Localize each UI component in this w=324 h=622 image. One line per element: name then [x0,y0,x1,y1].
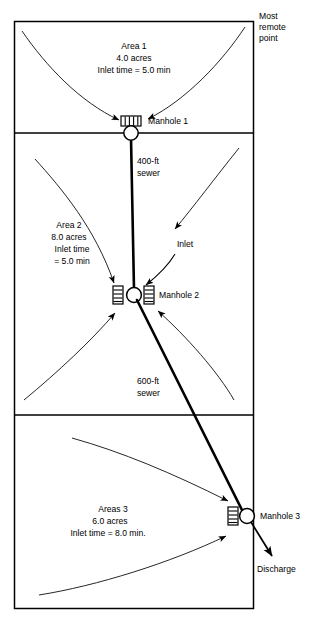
area-2-inlet-time-line-2: = 5.0 min [54,256,90,266]
sewer-400ft-label: 400-ft sewer [137,156,160,178]
manhole-3-label: Manhole 3 [260,511,300,521]
area-1-acreage: 4.0 acres [116,53,151,63]
most-remote-point-line-2: remote [259,22,286,32]
basin-boundary [15,22,254,609]
manhole-1-icon[interactable] [124,126,138,140]
manhole-1-label: Manhole 1 [148,116,188,126]
inlet-grate-icon-manhole-1 [121,116,141,126]
discharge-arrow: Discharge [251,522,296,574]
sewer-600ft-word: sewer [137,388,160,398]
manhole-2-group[interactable]: Manhole 2 [113,286,199,304]
sewer-600ft-line [137,300,243,512]
area-1-flow-arrow-left [22,31,119,120]
area-1-inlet-time: Inlet time = 5.0 min [98,65,171,75]
sewer-400ft-length: 400-ft [137,156,160,166]
inlet-grate-icon-manhole-2-right [144,286,154,304]
sewer-400ft-line [131,138,134,289]
area-2-inlet-time-line-1: Inlet time [55,244,90,254]
sewer-600ft-length: 600-ft [137,376,160,386]
manhole-1-group[interactable]: Manhole 1 [121,116,188,140]
inlet-grate-icon-manhole-3 [228,507,238,525]
area-3-acreage: 6.0 acres [92,516,127,526]
area-2-label: Area 2 8.0 acres Inlet time = 5.0 min [51,220,90,266]
area-1-label: Area 1 4.0 acres Inlet time = 5.0 min [98,41,171,75]
manhole-2-label: Manhole 2 [159,290,199,300]
area-3-flow-arrow-upper [72,438,228,501]
area-2-acreage: 8.0 acres [51,232,86,242]
area-2-flow-arrow-right [175,148,239,229]
area-2-lower-flow-arrow-right [158,311,234,400]
sewer-400ft-word: sewer [137,168,160,178]
area-3-flow-arrow-lower [39,536,226,595]
inlet-label: Inlet [177,239,194,249]
inlet-grate-icon-manhole-2-left [113,286,123,304]
area-1-name: Area 1 [121,41,147,51]
area-3-name: Areas 3 [98,504,128,514]
area-3-inlet-time: Inlet time = 8.0 min. [70,528,145,538]
manhole-2-icon[interactable] [127,288,142,303]
sewer-600ft-label: 600-ft sewer [137,376,160,398]
most-remote-point-line-1: Most [259,11,278,21]
area-2-name: Area 2 [56,220,82,230]
area-3-label: Areas 3 6.0 acres Inlet time = 8.0 min. [70,504,145,538]
figure-canvas: Area 1 4.0 acres Inlet time = 5.0 min Mo… [0,0,324,622]
manhole-3-group[interactable]: Manhole 3 [228,507,300,525]
discharge-label: Discharge [257,564,296,574]
most-remote-point-label: Most remote point [259,11,286,43]
area-2-lower-flow-arrow-left [24,313,115,400]
drainage-diagram: Area 1 4.0 acres Inlet time = 5.0 min Mo… [0,0,324,622]
inlet-callout: Inlet [146,239,194,285]
most-remote-point-line-3: point [259,33,278,43]
manhole-3-icon[interactable] [240,509,255,524]
